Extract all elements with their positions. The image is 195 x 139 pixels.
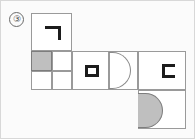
- semicircle-filled-icon: [138, 93, 163, 128]
- quadrant-bottom-left: [31, 71, 52, 90]
- hollow-square-icon: [85, 65, 99, 77]
- c-bracket-bottom-bar: [162, 75, 175, 78]
- corner-bracket-icon: [45, 26, 61, 40]
- corner-bracket-side-bar: [58, 26, 61, 40]
- c-bracket-top-bar: [162, 64, 175, 67]
- cell-with-outline-semicircle-glyph: [109, 51, 138, 90]
- cell-with-filled-semicircle-glyph: [138, 90, 186, 129]
- cell-with-hollow-square-glyph: [72, 51, 109, 90]
- cell-with-c-bracket-glyph: [138, 51, 186, 90]
- figure-index-marker: ③: [9, 12, 24, 27]
- figure-container: ③: [0, 0, 195, 139]
- quadrant-top-left: [31, 51, 52, 71]
- semicircle-outline-icon: [109, 52, 131, 89]
- top-cell-with-corner-glyph: [31, 13, 72, 51]
- quadrant-bottom-right: [52, 71, 72, 90]
- quadrant-top-right: [52, 51, 72, 71]
- c-bracket-icon: [162, 64, 175, 78]
